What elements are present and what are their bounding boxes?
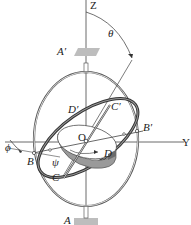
theta-label: θ bbox=[108, 28, 113, 39]
diagram-drawing bbox=[0, 0, 191, 225]
phi-label: ϕ bbox=[5, 142, 11, 153]
b-label: B bbox=[27, 156, 34, 167]
bearing-plate-bottom bbox=[74, 218, 98, 225]
bearing-plate-top bbox=[74, 48, 100, 56]
theta-arrowhead bbox=[128, 54, 133, 58]
c-label: C bbox=[52, 172, 59, 183]
psi-label: ψ bbox=[52, 157, 59, 168]
b-prime-label: B′ bbox=[143, 122, 152, 133]
a-prime-label: A′ bbox=[57, 46, 66, 57]
z-axis-label: Z bbox=[90, 0, 97, 11]
a-label: A bbox=[64, 215, 71, 225]
phi-arrowhead bbox=[18, 149, 22, 153]
bearing-B-prime bbox=[135, 129, 138, 132]
gyroscope-diagram: Z Y θ ϕ ψ O A′ A B B′ C C′ D D′ bbox=[0, 0, 191, 225]
d-prime-label: D′ bbox=[68, 104, 78, 115]
y-axis-label: Y bbox=[182, 137, 190, 148]
c-prime-label: C′ bbox=[111, 101, 121, 112]
origin-label: O bbox=[78, 132, 86, 143]
bottom-pivot bbox=[84, 206, 88, 218]
rotor-disk bbox=[54, 120, 119, 168]
d-label: D bbox=[104, 148, 112, 159]
